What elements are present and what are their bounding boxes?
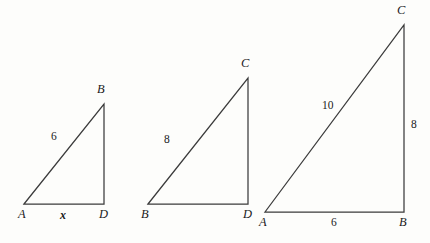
triangle-outlines xyxy=(24,25,404,212)
triangle-1-outline xyxy=(24,104,104,204)
triangle-3 xyxy=(265,25,404,212)
triangle-2-vertex-label-c-1: C xyxy=(241,57,249,70)
triangle-3-outline xyxy=(265,25,404,212)
triangle-1-side-length-label-1: x xyxy=(60,209,66,221)
triangle-3-side-length-label-2: 6 xyxy=(331,217,337,229)
similar-triangles-figure: ABD6xBCD8ACB1086 xyxy=(0,0,430,243)
triangle-3-vertex-label-a-0: A xyxy=(259,216,267,229)
triangles-svg-canvas xyxy=(0,0,430,243)
triangle-3-vertex-label-c-1: C xyxy=(397,4,405,17)
triangle-2-side-length-label-0: 8 xyxy=(164,134,170,146)
triangle-1 xyxy=(24,104,104,204)
triangle-3-side-length-label-1: 8 xyxy=(411,119,417,131)
triangle-2-vertex-label-d-2: D xyxy=(243,208,252,221)
triangle-1-vertex-label-a-0: A xyxy=(18,208,26,221)
triangle-2-vertex-label-b-0: B xyxy=(141,208,149,221)
triangle-2-outline xyxy=(148,78,248,204)
triangle-3-vertex-label-b-2: B xyxy=(399,216,407,229)
triangle-1-vertex-label-b-1: B xyxy=(97,83,105,96)
triangle-2 xyxy=(148,78,248,204)
triangle-3-side-length-label-0: 10 xyxy=(322,100,334,112)
triangle-1-vertex-label-d-2: D xyxy=(99,208,108,221)
triangle-1-side-length-label-0: 6 xyxy=(51,131,57,143)
